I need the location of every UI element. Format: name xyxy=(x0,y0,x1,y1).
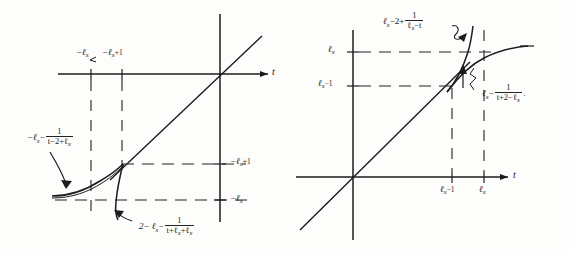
left-panel-graph xyxy=(50,14,268,222)
left-curve-label-upper: −ℓx− 1 t−2+ℓx xyxy=(27,128,74,149)
left-t-axis xyxy=(58,71,268,77)
left-arrowhead-upper xyxy=(61,180,72,189)
left-label-pointer xyxy=(90,57,96,62)
right-curve-steep xyxy=(447,26,473,92)
right-curve-label-upper: ℓx−2+ 1 ℓx−t xyxy=(383,12,424,33)
right-bracket-lower xyxy=(470,68,476,90)
right-curve-label-lower: ℓx− 1 t+2−ℓx . xyxy=(482,84,525,105)
right-x-tick-label-lx-minus-1: ℓx−1 xyxy=(440,185,455,196)
right-x-tick-label-lx: ℓx xyxy=(479,185,486,196)
left-top-tick-label-neg-lx: −ℓx xyxy=(76,48,89,59)
left-right-tick-label-neg-lx: −ℓx xyxy=(230,194,243,205)
left-curve-label-lower: 2− ℓx− 1 t+ℓx+ℓx xyxy=(139,217,195,238)
figure-drawing xyxy=(0,0,570,254)
left-arrow-upper xyxy=(50,152,66,184)
figure-container: −ℓx −ℓx+1 t −ℓx+1 −ℓx −ℓx− 1 t−2+ℓx 2− ℓ… xyxy=(0,0,570,254)
right-y-tick-label-lx-minus-1: ℓx−1 xyxy=(318,79,333,90)
right-panel-graph xyxy=(296,26,534,240)
right-t-axis xyxy=(296,174,508,180)
right-y-tick-label-lx: ℓx xyxy=(328,45,335,56)
right-axis-label-t: t xyxy=(513,170,516,180)
left-top-tick-label-neg-lx-plus-1: −ℓx+1 xyxy=(102,48,123,59)
left-right-tick-label-neg-lx-plus-1: −ℓx+1 xyxy=(230,157,251,168)
right-arrowhead-upper xyxy=(458,33,467,42)
left-axis-label-t: t xyxy=(272,67,275,77)
